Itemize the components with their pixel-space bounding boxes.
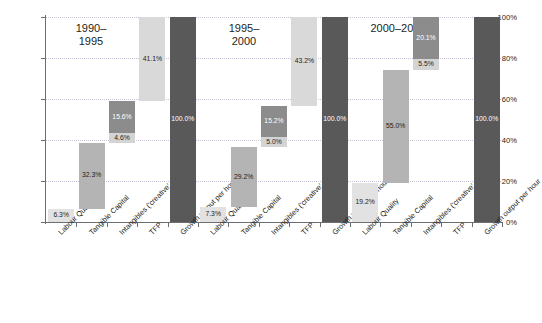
bar-value-label: 100.0% [474,116,500,123]
bar-value-label: 5.0% [261,139,287,146]
x-tick-mark [168,222,169,227]
bar-value-label: 20.1% [413,35,439,42]
y-tick-mark-60 [41,99,46,100]
bar-value-label: 5.5% [413,61,439,68]
bar-value-label: 4.6% [109,135,135,142]
bar-growth-output-per-hour: 100.0% [170,17,196,222]
x-tick-mark [320,222,321,227]
bar-value-label: 43.2% [291,58,317,65]
y-tick-mark-100 [41,17,46,18]
bar-value-label: 29.2% [231,174,257,181]
x-category-label-tfp: TFP [148,221,163,236]
bar-value-label: 41.1% [139,56,165,63]
bar-intangibles-creative: 4.6% [109,133,135,142]
bar-intangibles-creative: 5.5% [413,59,439,70]
bar-value-label: 55.0% [383,123,409,130]
bar-intangibles-creative: 5.0% [261,137,287,147]
bar-value-label: 32.3% [79,172,105,179]
bar-value-label: 19.2% [352,199,378,206]
bar-tangible-capital: 55.0% [383,70,409,183]
gridline-20 [46,181,501,182]
bar-intangibles-other: 20.1% [413,17,439,58]
panel-title-1995-2000: 1995– 2000 [208,22,280,48]
x-category-label-tfp: TFP [300,221,315,236]
bar-value-label: 15.2% [261,118,287,125]
bar-value-label: 15.6% [109,114,135,121]
bar-value-label: 100.0% [322,116,348,123]
y-tick-mark-80 [41,58,46,59]
panel-title-1990-1995: 1990– 1995 [55,22,127,48]
bar-tfp: 43.2% [291,17,317,106]
x-category-label-tfp: TFP [452,221,467,236]
bar-intangibles-other: 15.2% [261,106,287,137]
y-tick-mark-20 [41,181,46,182]
gridline-60 [46,99,501,100]
y-axis-line [45,15,46,224]
bar-tangible-capital: 29.2% [231,147,257,207]
bar-growth-output-per-hour: 100.0% [474,17,500,222]
bar-tangible-capital: 32.3% [79,143,105,209]
x-tick-mark [472,222,473,227]
bar-growth-output-per-hour: 100.0% [322,17,348,222]
bar-tfp: 41.1% [139,17,165,101]
y-tick-mark-0 [41,222,46,223]
bar-value-label: 100.0% [170,116,196,123]
bar-intangibles-other: 15.6% [109,101,135,133]
y-tick-mark-40 [41,140,46,141]
